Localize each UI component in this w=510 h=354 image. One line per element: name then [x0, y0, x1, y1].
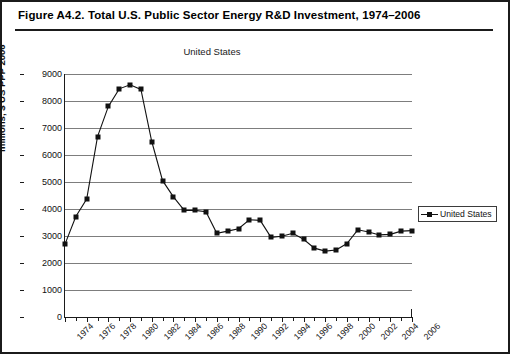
y-axis-tick-label: 6000: [42, 150, 62, 160]
x-axis-tick-label: 2002: [378, 321, 399, 342]
x-axis-tick-label: 1976: [96, 321, 117, 342]
data-point: [323, 249, 328, 254]
x-axis-tick-label: 1974: [75, 321, 96, 342]
data-point: [117, 86, 122, 91]
y-axis-tick-mark: [20, 236, 24, 237]
y-axis-tick-label: 8000: [42, 96, 62, 106]
x-axis-tick-label: 1986: [205, 321, 226, 342]
legend-marker-square: [427, 212, 432, 217]
data-point: [377, 232, 382, 237]
data-point: [149, 139, 154, 144]
y-axis-tick-label: 5000: [42, 177, 62, 187]
x-axis-tick-label: 1990: [248, 321, 269, 342]
series-line-united-states: [65, 74, 412, 318]
x-axis-tick-label: 2000: [357, 321, 378, 342]
data-point: [279, 234, 284, 239]
x-axis-tick-label: 1982: [161, 321, 182, 342]
plot-area: [65, 74, 412, 317]
caption-divider: [15, 29, 493, 31]
y-axis-tick-label: 7000: [42, 123, 62, 133]
data-point: [399, 229, 404, 234]
y-axis-tick-mark: [20, 263, 24, 264]
x-axis-tick-label: 2006: [422, 321, 443, 342]
x-axis-tick-label: 1980: [140, 321, 161, 342]
data-point: [182, 208, 187, 213]
x-axis-tick-label: 1984: [183, 321, 204, 342]
y-axis-tick-label: 1000: [42, 285, 62, 295]
data-point: [171, 194, 176, 199]
chart-title: United States: [2, 46, 422, 57]
legend-label-united-states: United States: [440, 209, 492, 219]
data-point: [312, 246, 317, 251]
x-axis-tick-label: 1992: [270, 321, 291, 342]
legend[interactable]: United States: [418, 206, 497, 222]
data-point: [63, 242, 68, 247]
data-point: [247, 217, 252, 222]
x-axis-tick-label: 1978: [118, 321, 139, 342]
y-axis-tick-mark: [20, 155, 24, 156]
y-axis-tick-mark: [20, 182, 24, 183]
y-axis-tick-mark: [20, 290, 24, 291]
data-point: [290, 231, 295, 236]
y-axis-tick-label: 2000: [42, 258, 62, 268]
y-axis-tick-label: 4000: [42, 204, 62, 214]
data-point: [258, 218, 263, 223]
data-point: [193, 208, 198, 213]
y-axis-tick-mark: [20, 101, 24, 102]
data-point: [128, 82, 133, 87]
data-point: [355, 227, 360, 232]
y-axis-tick-labels: 0100020003000400050006000700080009000: [24, 74, 62, 318]
data-point: [84, 197, 89, 202]
legend-swatch-united-states: [421, 211, 438, 218]
data-point: [73, 214, 78, 219]
y-axis-tick-mark: [20, 317, 24, 318]
data-point: [388, 232, 393, 237]
y-axis-tick-mark: [20, 74, 24, 75]
x-axis-tick-label: 1998: [335, 321, 356, 342]
y-axis-tick-label: 3000: [42, 231, 62, 241]
figure-panel: Figure A4.2. Total U.S. Public Sector En…: [0, 0, 510, 354]
y-axis-title: millions, $ US PPP 2006: [0, 44, 7, 152]
data-point: [334, 248, 339, 253]
chart-container: United States millions, $ US PPP 2006 01…: [2, 32, 508, 354]
data-point: [344, 241, 349, 246]
figure-caption: Figure A4.2. Total U.S. Public Sector En…: [18, 9, 421, 21]
data-point: [160, 178, 165, 183]
x-axis-tick-label: 1996: [313, 321, 334, 342]
data-point: [203, 209, 208, 214]
y-axis-tick-label: 0: [57, 312, 62, 322]
data-point: [106, 104, 111, 109]
data-point: [214, 231, 219, 236]
x-axis-tick-label: 2004: [400, 321, 421, 342]
x-axis-tick-label: 1994: [291, 321, 312, 342]
y-axis-tick-mark: [20, 128, 24, 129]
data-point: [236, 226, 241, 231]
caption-area: Figure A4.2. Total U.S. Public Sector En…: [2, 2, 508, 32]
data-point: [138, 87, 143, 92]
data-point: [366, 229, 371, 234]
data-point: [301, 237, 306, 242]
data-point: [95, 134, 100, 139]
x-axis-tick-label: 1988: [226, 321, 247, 342]
y-axis-tick-label: 9000: [42, 69, 62, 79]
data-point: [225, 229, 230, 234]
y-axis-tick-mark: [20, 209, 24, 210]
data-point: [269, 235, 274, 240]
data-point: [410, 228, 415, 233]
